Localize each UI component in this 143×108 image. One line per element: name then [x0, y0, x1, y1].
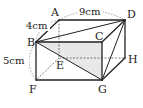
vertex-label-c: C [95, 30, 103, 43]
dimension-label-ab: 4cm [26, 20, 48, 31]
vertex-label-h: H [128, 53, 138, 66]
vertex-label-a: A [50, 6, 60, 19]
dimension-label-bf: 5cm [3, 55, 25, 66]
edge-gh [102, 58, 125, 80]
vertex-label-b: B [27, 36, 35, 49]
dimension-label-ad: 9cm [79, 6, 101, 17]
segment-dg [102, 20, 125, 80]
cuboid-diagram: A D B C E H F G 9cm 4cm 5cm [0, 0, 143, 108]
vertex-label-g: G [98, 83, 107, 96]
vertex-label-e: E [56, 59, 64, 72]
vertex-label-d: D [127, 8, 136, 21]
vertex-label-f: F [29, 83, 37, 96]
